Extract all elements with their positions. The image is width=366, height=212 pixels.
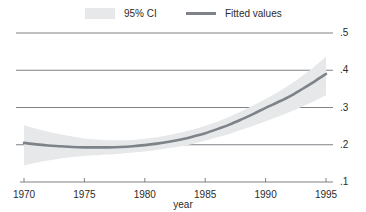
x-tick-label: 1995 <box>315 190 337 200</box>
plot-area: .1.2.3.4.5 197019751980198519901995 year <box>0 0 366 212</box>
x-axis-title: year <box>0 200 366 210</box>
y-tick-label: .1 <box>340 177 348 187</box>
y-tick-label: .2 <box>340 140 348 150</box>
x-tick-label: 1980 <box>134 190 156 200</box>
x-tick-label: 1975 <box>73 190 95 200</box>
ci-band-95 <box>24 56 326 165</box>
y-tick-label: .3 <box>340 103 348 113</box>
y-tick-label: .4 <box>340 65 348 75</box>
x-tick-label: 1970 <box>13 190 35 200</box>
y-tick-label: .5 <box>340 28 348 38</box>
chart-figure: 95% CI Fitted values .1.2.3.4.5 19701975… <box>0 0 366 212</box>
x-tick-label: 1990 <box>254 190 276 200</box>
x-axis <box>20 178 333 182</box>
chart-canvas <box>0 0 366 212</box>
x-tick-label: 1985 <box>194 190 216 200</box>
